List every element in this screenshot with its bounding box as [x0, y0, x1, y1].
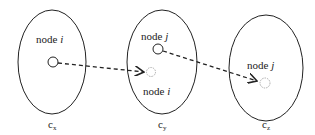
arrow-node-j-move — [163, 51, 257, 81]
cluster-cy-node-i-label: node i — [143, 85, 170, 97]
node-i-source — [48, 57, 58, 67]
node-j-source — [153, 44, 163, 54]
node-i-ghost — [147, 68, 156, 77]
cluster-cz-node-label: node j — [247, 59, 274, 71]
cluster-cy-ellipse — [127, 10, 197, 114]
cluster-cy-label: cy — [158, 118, 167, 132]
diagram-canvas: node i cx node j node i cy node j cz — [0, 0, 315, 135]
node-j-ghost — [260, 78, 270, 88]
cluster-cx-node-label: node i — [36, 33, 63, 45]
cluster-cx-label: cx — [48, 118, 57, 132]
arrow-node-i-move — [58, 63, 144, 72]
cluster-cy-node-j-label: node j — [141, 30, 168, 42]
cluster-cz-label: cz — [262, 118, 270, 132]
